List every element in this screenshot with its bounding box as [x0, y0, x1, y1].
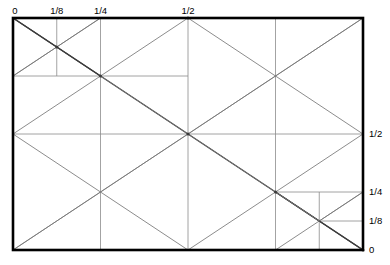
diagram-canvas: 01/81/41/2 1/21/41/80 — [0, 0, 390, 265]
right-tick-label-2: 1/8 — [369, 216, 382, 226]
right-tick-label-1: 1/4 — [369, 187, 382, 197]
recursive-subdivision-figure — [0, 0, 390, 265]
top-tick-label-3: 1/2 — [181, 6, 194, 16]
eighth-diag-tl-down — [13, 47, 57, 76]
node-eighth-top-left — [55, 46, 58, 49]
node-quarter-top-left — [99, 75, 102, 78]
eighth-diag-br-up — [319, 192, 363, 221]
top-tick-label-1: 1/8 — [50, 6, 63, 16]
node-quarter-bottom-right — [274, 191, 277, 194]
top-tick-label-2: 1/4 — [94, 6, 107, 16]
eighth-diag-br-down — [276, 192, 320, 221]
right-tick-label-0: 1/2 — [369, 129, 382, 139]
top-tick-label-0: 0 — [12, 6, 17, 16]
eighth-diag-tl-up — [57, 18, 101, 47]
node-center — [187, 133, 190, 136]
right-tick-label-3: 0 — [369, 245, 374, 255]
